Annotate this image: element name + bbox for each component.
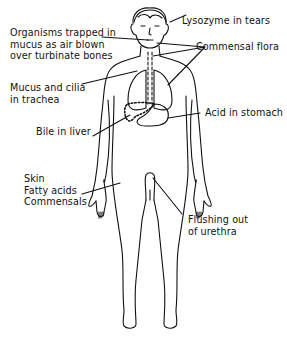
label-line: of urethra: [188, 226, 248, 238]
label-line: Organisms trapped in: [10, 27, 116, 39]
label-skin: Skin Fatty acids Commensals: [24, 173, 87, 208]
label-lysozyme: Lysozyme in tears: [182, 15, 270, 27]
label-organisms-trapped: Organisms trapped in mucus as air blown …: [10, 27, 116, 62]
label-line: Fatty acids: [24, 185, 87, 197]
label-flushing-urethra: Flushing out of urethra: [188, 214, 248, 237]
label-line: in trachea: [10, 94, 86, 106]
label-line: Flushing out: [188, 214, 248, 226]
label-commensal-flora: Commensal flora: [196, 41, 279, 53]
body-defenses-diagram: Organisms trapped in mucus as air blown …: [0, 0, 287, 341]
label-line: Skin: [24, 173, 87, 185]
label-line: Mucus and cilia: [10, 82, 86, 94]
label-line: over turbinate bones: [10, 50, 116, 62]
label-mucus-cilia: Mucus and cilia in trachea: [10, 82, 86, 105]
label-acid-stomach: Acid in stomach: [205, 107, 283, 119]
label-line: Commensals: [24, 196, 87, 208]
label-bile-liver: Bile in liver: [36, 126, 91, 138]
label-line: mucus as air blown: [10, 39, 116, 51]
